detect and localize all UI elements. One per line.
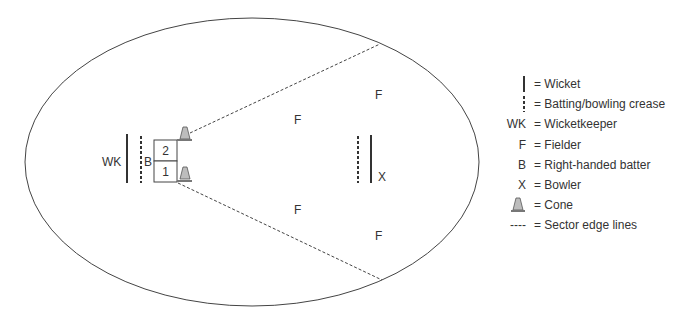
legend-label: = Cone [534, 198, 573, 212]
crease-icon [522, 96, 526, 112]
zone-2-label: 2 [162, 144, 169, 158]
legend-symbol: ---- [490, 215, 534, 235]
wicket-icon [522, 76, 526, 92]
legend-label: = Sector edge lines [534, 218, 637, 232]
cone-icon [510, 197, 526, 213]
legend-item-batter: B = Right-handed batter [490, 155, 690, 175]
legend-symbol: B [490, 155, 534, 175]
wicketkeeper-label: WK [102, 155, 121, 169]
bowler-label: X [378, 170, 386, 184]
fielder-label: F [294, 113, 301, 127]
batter-label: B [144, 155, 152, 169]
cone-icon [177, 167, 192, 182]
zone-1-label: 1 [162, 165, 169, 179]
legend: = Wicket = Batting/bowling crease WK = W… [490, 74, 690, 236]
legend-item-sector-edge: ---- = Sector edge lines [490, 215, 690, 235]
field-boundary [25, 18, 479, 306]
legend-label: = Fielder [534, 138, 581, 152]
legend-item-cone: = Cone [490, 195, 690, 215]
fielder-label: F [294, 203, 301, 217]
fielder-label: F [375, 229, 382, 243]
legend-symbol: X [490, 175, 534, 195]
sector-edge-line-bottom [178, 183, 382, 280]
fielder-label: F [375, 88, 382, 102]
sector-edge-line-top [190, 44, 380, 133]
legend-label: = Bowler [534, 178, 581, 192]
legend-label: = Right-handed batter [534, 158, 650, 172]
legend-item-bowler: X = Bowler [490, 175, 690, 195]
legend-item-fielder: F = Fielder [490, 135, 690, 155]
legend-symbol: F [490, 135, 534, 155]
cone-icon [177, 127, 192, 141]
legend-label: = Wicketkeeper [534, 117, 617, 131]
legend-item-wicket: = Wicket [490, 74, 690, 94]
legend-item-wicketkeeper: WK = Wicketkeeper [490, 114, 690, 134]
legend-symbol: WK [490, 114, 534, 134]
legend-label: = Wicket [534, 77, 580, 91]
legend-item-crease: = Batting/bowling crease [490, 94, 690, 114]
legend-label: = Batting/bowling crease [534, 97, 665, 111]
